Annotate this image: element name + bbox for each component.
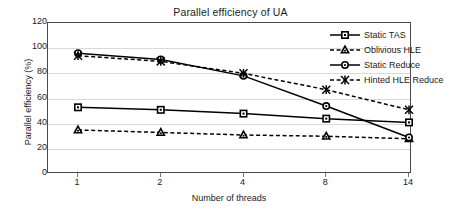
x-tick-label: 8 (305, 177, 345, 187)
asterisk-marker (341, 75, 349, 84)
plot-area: Static TASOblivious HLEStatic ReduceHint… (47, 22, 411, 173)
legend-label: Oblivious HLE (362, 45, 421, 55)
chart-container: Parallel efficiency of UA Parallel effic… (0, 0, 461, 214)
square-marker (342, 31, 348, 37)
x-tick-label: 2 (140, 177, 180, 187)
legend-key-icon (328, 73, 362, 87)
y-tick-label: 20 (7, 142, 47, 152)
x-axis-label: Number of threads (47, 193, 411, 203)
chart-legend: Static TASOblivious HLEStatic ReduceHint… (328, 27, 444, 87)
y-tick-label: 120 (7, 16, 47, 26)
x-tick-mark (408, 173, 409, 177)
square-marker (406, 119, 412, 125)
triangle-marker (323, 132, 330, 139)
circle-marker (342, 61, 348, 67)
triangle-marker (157, 129, 164, 136)
legend-item-oblivious-hle[interactable]: Oblivious HLE (328, 42, 444, 57)
chart-title: Parallel efficiency of UA (0, 6, 461, 18)
circle-marker (323, 103, 329, 109)
triangle-marker (74, 126, 81, 133)
legend-key-icon (328, 58, 362, 72)
x-tick-mark (243, 173, 244, 177)
x-tick-label: 1 (57, 177, 97, 187)
legend-key-icon (328, 28, 362, 42)
x-tick-mark (160, 173, 161, 177)
legend-item-hinted-hle-reduce[interactable]: Hinted HLE Reduce (328, 72, 444, 87)
y-tick-label: 60 (7, 92, 47, 102)
square-marker (240, 110, 246, 116)
legend-item-static-tas[interactable]: Static TAS (328, 27, 444, 42)
square-marker (158, 107, 164, 113)
y-tick-label: 0 (7, 167, 47, 177)
x-tick-mark (325, 173, 326, 177)
square-marker (75, 104, 81, 110)
triangle-marker (240, 131, 247, 138)
y-tick-label: 100 (7, 41, 47, 51)
x-tick-label: 4 (223, 177, 263, 187)
x-tick-mark (77, 173, 78, 177)
y-tick-label: 80 (7, 66, 47, 76)
x-tick-label: 14 (388, 177, 428, 187)
legend-label: Static TAS (362, 30, 406, 40)
square-marker (323, 115, 329, 121)
legend-label: Static Reduce (362, 60, 420, 70)
legend-label: Hinted HLE Reduce (362, 75, 444, 85)
triangle-marker (341, 46, 348, 53)
y-tick-label: 40 (7, 117, 47, 127)
circle-marker (406, 134, 412, 140)
legend-item-static-reduce[interactable]: Static Reduce (328, 57, 444, 72)
legend-key-icon (328, 43, 362, 57)
